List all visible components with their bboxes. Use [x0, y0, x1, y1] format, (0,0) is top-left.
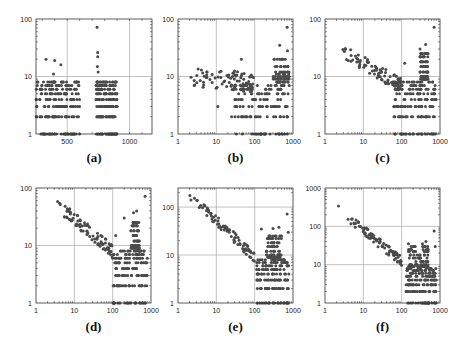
data-point — [391, 83, 394, 86]
data-point — [422, 70, 425, 73]
scatter-panel-b: 1101001000110100(b) — [162, 16, 301, 166]
data-point — [374, 65, 377, 68]
data-point — [273, 279, 276, 282]
data-point — [249, 115, 252, 118]
data-point — [193, 84, 196, 87]
data-point — [103, 84, 106, 87]
data-point — [380, 78, 383, 81]
data-point — [116, 253, 119, 256]
y-tick-label: 100 — [20, 185, 32, 192]
data-point — [420, 88, 423, 91]
data-point — [420, 278, 423, 281]
data-point — [414, 245, 417, 248]
figure-six-scatter-plots: 5001000110100(a) 1101001000110100(b) 110… — [0, 0, 465, 344]
data-point — [261, 105, 264, 108]
data-point — [92, 234, 95, 237]
data-point — [206, 209, 209, 212]
y-tick-label: 10 — [24, 242, 32, 249]
data-point — [237, 236, 240, 239]
x-tick-label: 100 — [396, 138, 408, 145]
data-point — [46, 81, 49, 84]
data-point — [410, 272, 413, 275]
data-point — [95, 84, 98, 87]
data-point — [349, 222, 352, 225]
data-point — [111, 98, 114, 101]
data-point — [266, 254, 269, 257]
data-point — [424, 115, 427, 118]
data-point — [230, 85, 233, 88]
data-point — [280, 65, 283, 68]
data-point — [128, 253, 131, 256]
data-point — [359, 225, 362, 228]
data-point — [433, 275, 436, 278]
data-point — [79, 219, 82, 222]
data-point — [279, 264, 282, 267]
data-point — [65, 105, 68, 108]
data-point — [407, 242, 410, 245]
data-point — [394, 98, 397, 101]
data-point — [278, 105, 281, 108]
data-point — [247, 87, 250, 90]
data-point — [430, 92, 433, 95]
data-point — [266, 245, 269, 248]
data-point — [201, 71, 204, 74]
data-point — [426, 52, 429, 55]
data-point — [78, 98, 81, 101]
data-point — [97, 70, 100, 73]
data-point — [422, 78, 425, 81]
data-point — [97, 88, 100, 91]
data-point — [195, 81, 198, 84]
data-point — [115, 92, 118, 95]
data-point — [426, 256, 429, 259]
data-point — [417, 105, 420, 108]
data-point — [237, 98, 240, 101]
data-point — [188, 194, 191, 197]
data-point — [371, 236, 374, 239]
data-point — [60, 115, 63, 118]
data-point — [69, 213, 72, 216]
data-point — [60, 98, 63, 101]
data-point — [377, 245, 380, 248]
data-point — [99, 92, 102, 95]
data-point — [270, 84, 273, 87]
data-point — [232, 230, 235, 233]
y-tick-label: 10 — [24, 73, 32, 80]
data-point — [228, 81, 231, 84]
data-point — [217, 223, 220, 226]
data-point — [114, 115, 117, 118]
data-point — [384, 71, 387, 74]
data-point — [386, 79, 389, 82]
data-point — [237, 115, 240, 118]
data-point — [209, 78, 212, 81]
data-point — [383, 75, 386, 78]
data-point — [410, 115, 413, 118]
data-point — [133, 221, 136, 224]
data-point — [117, 274, 120, 277]
data-point — [210, 212, 213, 215]
data-point — [357, 53, 360, 56]
data-point — [204, 205, 207, 208]
data-point — [409, 105, 412, 108]
data-point — [116, 284, 119, 287]
data-point — [123, 217, 126, 220]
data-point — [416, 81, 419, 84]
data-point — [214, 77, 217, 80]
data-point — [137, 261, 140, 264]
data-point — [433, 290, 436, 293]
data-point — [433, 92, 436, 95]
data-point — [243, 92, 246, 95]
data-point — [277, 226, 280, 229]
data-point — [96, 65, 99, 68]
data-point — [347, 218, 350, 221]
data-point — [417, 115, 420, 118]
data-point — [121, 267, 124, 270]
data-point — [274, 115, 277, 118]
data-point — [265, 250, 268, 253]
data-point — [230, 115, 233, 118]
data-point — [130, 274, 133, 277]
y-tick-label: 10 — [166, 252, 174, 259]
data-point — [379, 68, 382, 71]
data-point — [277, 279, 280, 282]
data-point — [77, 84, 80, 87]
data-point — [418, 256, 421, 259]
